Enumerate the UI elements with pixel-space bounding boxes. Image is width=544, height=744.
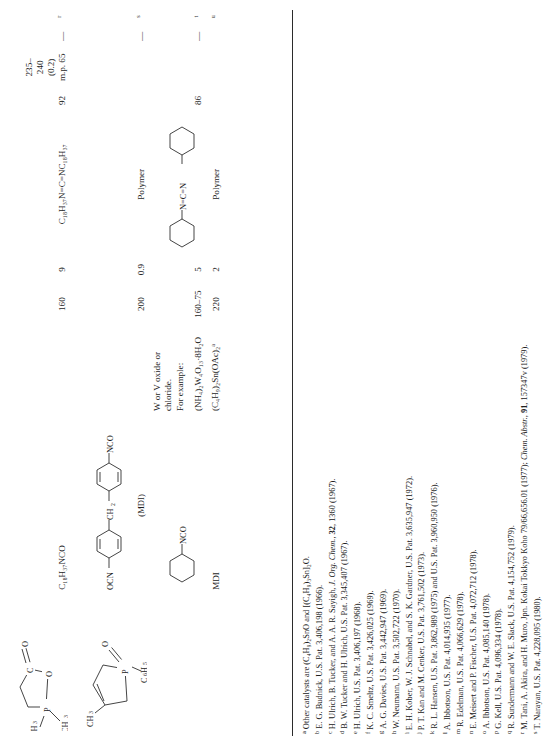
footnote-ref-cell: s [73,8,152,25]
substrate-cell: C₁₈H₃₇NCO [6,416,73,595]
temperature-cell: 160 [6,284,73,323]
dicyclohexylcarbodiimide-structure-icon: N=C=N [160,119,204,249]
footnote-item: fK. C. Smeltz, U.S. Pat. 3,426,025 (1969… [364,44,377,734]
footnote-item: oA. Ibbotson, U.S. Pat. 4,085,140 (1978)… [480,44,493,734]
product-cell: N=C=N [152,114,209,255]
footnote-mark: f [364,732,371,734]
footnote-mark: s [531,732,538,735]
footnote-text: P. T. Kan and M. Cenker, U.S. Pat. 3,761… [418,552,427,730]
bp-mp-cell [73,48,152,87]
svg-text:O: O [21,641,30,647]
footnote-item: lA. Ibbotson, U.S. Pat. 4,014,935 (1977)… [441,44,454,734]
product-cell: C₁₈H₃₇N=C=NC₁₈H₃₇ [6,114,73,255]
svg-text:CH: CH [30,725,39,731]
footnote-text: K. C. Smeltz, U.S. Pat. 3,426,025 (1969)… [366,591,375,730]
footnote-ref-cell: r [6,8,73,25]
footnote-text: E. Meisert and P. Fischer, U.S. Pat. 4,0… [469,549,478,728]
catalyst-footnote-mark: a [209,344,216,347]
footnote-mark: j [415,732,422,734]
bp-mp-cell [209,48,227,87]
footnote-item: hW. Neumann, U.S. Pat. 3,502,722 (1970). [390,44,403,734]
footnote-text-pre: H. Ulrich, B. Tucker, and A. A. R. Sayig… [328,585,337,729]
footnote-ref-mark: s [134,15,141,17]
catalyst-cell [73,324,152,416]
substrate-label: C₁₈H₃₇NCO [57,421,68,590]
svg-text:CH: CH [86,715,95,727]
substrate-cell: MDI [209,416,227,595]
svg-text:O: O [101,641,110,647]
footnote-text: Other catalysts are (C₄H₉)₂SnO and [(C₄H… [302,556,311,729]
bp-mp-cell [152,48,209,87]
svg-text:O: O [45,671,54,677]
footnote-item: jP. T. Kan and M. Cenker, U.S. Pat. 3,76… [415,44,428,734]
mdi-caption: (MDI) [136,421,147,590]
svg-text:NCO: NCO [179,526,188,544]
footnote-text: A. G. Davies, U.S. Pat. 3,442,947 (1969)… [379,589,388,729]
catalyst-cell [6,324,73,416]
svg-text:2: 2 [110,503,116,506]
time-cell: 9 [6,255,73,285]
yield-cell [209,87,227,114]
footnote-mark: d [338,731,345,734]
footnote-item: bE. G. Budnick, U.S. Pat. 3,406,198 (196… [313,44,326,734]
svg-text:CH: CH [61,721,68,731]
footnote-text: A. Ibbotson, U.S. Pat. 4,014,935 (1977). [443,595,452,731]
svg-text:5: 5 [142,662,147,665]
footnote-ref-mark: r [55,16,62,18]
extra-cell: — [73,25,152,47]
footnote-mark: o [480,731,487,734]
footnote-text: G. Kell, U.S. Pat. 4,096,334 (1978). [495,608,504,729]
bp-mp-cell: 235–240 (0.2) m.p. 65 [6,48,73,87]
footnote-ref-cell: u [209,8,227,25]
footnote-mark: c [326,731,333,734]
footnote-text: R. Sundermann and W. E. Slack, U.S. Pat.… [507,525,516,729]
footnote-text: H. Ulrich, U.S. Pat. 3,406,197 (1968). [354,601,363,729]
footnote-text: T. Narayan, U.S. Pat. 4,228,095 (1980). [533,596,542,729]
footnote-text-pre: M. Tani, A. Akira, and H. Muro, Jpn. Kok… [520,460,529,730]
mp-value: m.p. 65 [57,53,68,82]
product-cell: Polymer [73,114,152,255]
footnote-text: E. G. Budnick, U.S. Pat. 3,406,198 (1966… [315,585,324,729]
svg-text:C: C [140,677,147,683]
footnote-mark: r [518,732,525,734]
catalyst-formula: (C₄H₉)₂Sn(OAc)₂ [211,347,221,411]
catalyst-note-line-2: chloride. [163,329,174,411]
footnote-mark: l [441,732,448,734]
footnote-text: A. Ibbotson, U.S. Pat. 4,085,140 (1978). [482,593,491,729]
extra-cell: — [152,25,209,47]
footnote-item: iE. H. Kober, W. J. Schnabel, and S. K. … [403,44,416,734]
footnote-item: mR. Edelman, U.S. Pat. 4,066,629 (1978). [454,44,467,734]
footnote-journal: J. Org. Chem. [328,539,337,586]
product-cell: Polymer [209,114,227,255]
footnote-text-post: , 1360 (1967). [328,479,337,526]
footnote-mark: q [505,731,512,734]
footnote-mark: n [467,731,474,734]
footnote-mark: m [454,729,461,734]
catalyst-structure-cell [209,595,227,736]
svg-text:N=C=N: N=C=N [179,183,188,210]
svg-text:H: H [140,667,147,673]
svg-text:C: C [26,667,35,673]
mdi-structure-icon: OCN CH 2 [83,422,135,590]
data-table: P O C O CH 3 [6,8,227,736]
table-row: MDI (C₄H₉)₂Sn(OAc)₂a 220 2 Polymer u [209,8,227,736]
footnote-mark: h [390,731,397,734]
footnote-mark: i [403,732,410,734]
footnote-item: sT. Narayan, U.S. Pat. 4,228,095 (1980). [531,44,544,734]
footnote-text: E. H. Kober, W. J. Schnabel, and S. K. G… [405,476,414,730]
catalyst-note-line-3: For example: [175,329,186,411]
catalyst-cell: (C₄H₉)₂Sn(OAc)₂a [209,324,227,416]
footnote-mark: b [313,731,320,734]
cyclohexyl-isocyanate-structure-icon: NCO [160,514,204,590]
footnote-volume: 91 [520,405,529,413]
catalyst-note-line-1: W or V oxide or [152,329,163,411]
table-row: P CH 3 O C 6 H 5 [73,8,152,736]
yield-cell [73,87,152,114]
extra-cell [209,25,227,47]
temperature-cell: 160–75 [152,284,209,323]
footnote-item: kR. L. Hansen, U.S. Pat. 3,862,989 (1975… [428,44,441,734]
svg-text:OCN: OCN [106,572,115,590]
svg-text:3: 3 [32,721,38,724]
phospholane-oxide-structure-icon: P O C O CH 3 [6,619,68,731]
yield-cell: 86 [152,87,209,114]
